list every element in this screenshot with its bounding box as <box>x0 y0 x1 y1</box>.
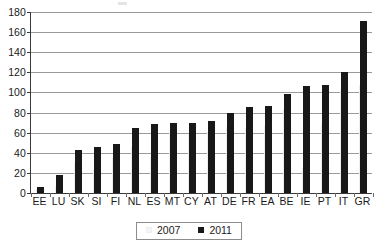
legend-label-2007: 2007 <box>157 225 180 236</box>
bar-group <box>31 12 50 193</box>
bar-group <box>354 12 373 193</box>
legend-item-2011: 2011 <box>198 225 232 236</box>
x-tick-label-mt: MT <box>165 196 180 207</box>
bar-group <box>240 12 259 193</box>
bar-2011-nl <box>132 128 139 193</box>
chart-legend: 2007 2011 <box>136 222 242 240</box>
x-tick-mark <box>373 193 374 197</box>
x-tick-label-at: AT <box>204 196 217 207</box>
x-tick-label-ea: EA <box>260 196 274 207</box>
legend-label-2011: 2011 <box>209 225 232 236</box>
bar-group <box>69 12 88 193</box>
x-tick-label-lu: LU <box>52 196 66 207</box>
bar-2011-mt <box>170 123 177 193</box>
bar-group <box>297 12 316 193</box>
bar-group <box>221 12 240 193</box>
legend-swatch-2007-icon <box>146 227 152 233</box>
bar-2011-be <box>284 94 291 193</box>
y-tick-label: 0 <box>20 188 26 199</box>
bar-group <box>316 12 335 193</box>
bar-group <box>335 12 354 193</box>
bars-layer <box>31 12 372 193</box>
x-tick-label-es: ES <box>146 196 160 207</box>
bar-group <box>145 12 164 193</box>
y-tick-label: 80 <box>14 107 26 118</box>
x-tick-label-nl: NL <box>128 196 142 207</box>
x-tick-label-ie: IE <box>300 196 310 207</box>
y-axis: 020406080100120140160180 <box>0 0 30 200</box>
legend-item-2007: 2007 <box>146 225 180 236</box>
y-tick-label: 180 <box>8 7 26 18</box>
bar-2011-si <box>94 147 101 193</box>
bar-2011-it <box>341 72 348 193</box>
x-tick-label-sk: SK <box>70 196 84 207</box>
y-tick-label: 120 <box>8 67 26 78</box>
bar-group <box>259 12 278 193</box>
bar-chart: 020406080100120140160180 EELUSKSIFINLESM… <box>0 0 378 245</box>
bar-group <box>107 12 126 193</box>
bar-2011-ee <box>37 187 44 193</box>
bar-group <box>202 12 221 193</box>
y-tick-label: 160 <box>8 27 26 38</box>
x-tick-label-si: SI <box>91 196 101 207</box>
bar-2011-cy <box>189 123 196 193</box>
x-tick-label-de: DE <box>222 196 237 207</box>
y-tick-label: 40 <box>14 148 26 159</box>
scan-artifact <box>118 2 127 5</box>
bar-2011-gr <box>360 21 367 193</box>
y-tick-label: 140 <box>8 47 26 58</box>
y-tick-label: 60 <box>14 127 26 138</box>
x-tick-label-fi: FI <box>111 196 121 207</box>
x-tick-label-be: BE <box>279 196 293 207</box>
bar-2011-fr <box>246 107 253 193</box>
x-tick-label-ee: EE <box>32 196 46 207</box>
y-tick-label: 100 <box>8 87 26 98</box>
y-tick-label: 20 <box>14 168 26 179</box>
bar-2011-sk <box>75 150 82 193</box>
legend-swatch-2011-icon <box>198 227 204 233</box>
bar-group <box>183 12 202 193</box>
bar-group <box>50 12 69 193</box>
bar-2011-ea <box>265 106 272 193</box>
x-tick-label-gr: GR <box>355 196 371 207</box>
bar-2011-fi <box>113 144 120 193</box>
x-axis: EELUSKSIFINLESMTCYATDEFREABEIEPTITGR <box>30 196 372 212</box>
x-tick-label-fr: FR <box>241 196 255 207</box>
plot-area <box>30 12 372 193</box>
x-tick-label-it: IT <box>339 196 349 207</box>
bar-group <box>88 12 107 193</box>
bar-2011-pt <box>322 85 329 193</box>
bar-2011-ie <box>303 86 310 193</box>
bar-group <box>126 12 145 193</box>
bar-2011-es <box>151 124 158 193</box>
x-tick-label-pt: PT <box>318 196 332 207</box>
bar-2011-de <box>227 113 234 193</box>
bar-group <box>164 12 183 193</box>
x-tick-label-cy: CY <box>184 196 199 207</box>
bar-2011-lu <box>56 175 63 193</box>
bar-2011-at <box>208 121 215 193</box>
bar-group <box>278 12 297 193</box>
